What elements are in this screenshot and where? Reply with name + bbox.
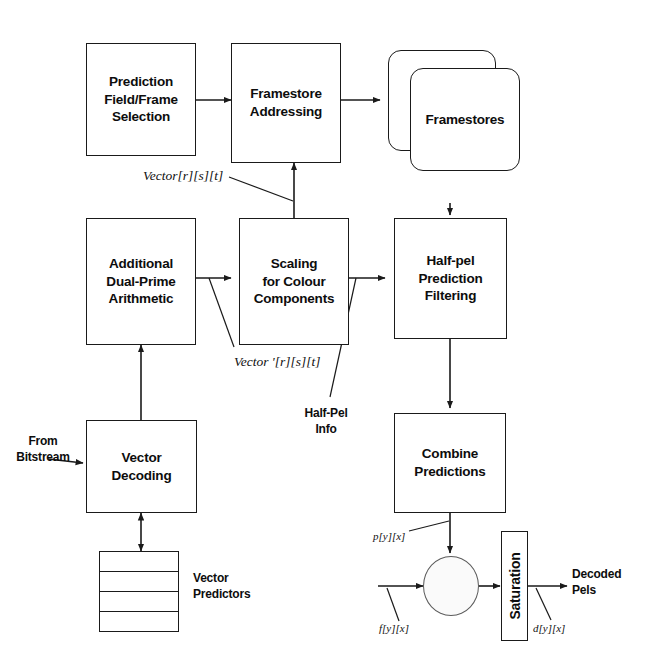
block-diagram: Prediction Field/Frame Selection Framest… <box>0 0 645 668</box>
annotation-vector-predictors: Vector Predictors <box>193 571 250 602</box>
leader-vector-rst <box>229 177 293 201</box>
annotation-decoded-pels: Decoded Pels <box>572 567 621 598</box>
block-label: Framestore Addressing <box>250 85 322 121</box>
block-half-pel-prediction-filtering[interactable]: Half-pel Prediction Filtering <box>394 218 507 339</box>
annotation-f-yx: f[y][x] <box>379 622 409 634</box>
annotation-half-pel-info: Half-Pel Info <box>295 406 357 437</box>
block-framestores[interactable]: Framestores <box>388 50 528 175</box>
predictor-slot <box>100 572 178 592</box>
adder-node[interactable] <box>423 556 479 616</box>
block-label: Vector Decoding <box>112 449 172 485</box>
block-label: Half-pel Prediction Filtering <box>418 252 482 305</box>
block-vector-predictors[interactable] <box>99 551 179 632</box>
block-additional-dual-prime-arithmetic[interactable]: Additional Dual-Prime Arithmetic <box>86 218 196 345</box>
block-label: Additional Dual-Prime Arithmetic <box>106 255 175 308</box>
block-saturation[interactable]: Saturation <box>501 531 528 641</box>
block-label: Scaling for Colour Components <box>254 255 335 308</box>
leader-p-yx <box>409 521 449 531</box>
block-prediction-field-frame-selection[interactable]: Prediction Field/Frame Selection <box>86 43 196 156</box>
annotation-vector-rst: Vector[r][s][t] <box>143 168 223 184</box>
block-label: Saturation <box>507 552 523 619</box>
block-label: Framestores <box>426 111 505 129</box>
leader-f-yx <box>387 588 399 621</box>
leader-vector-prime-rst <box>209 278 234 347</box>
annotation-d-yx: d[y][x] <box>533 622 565 634</box>
predictor-slot <box>100 552 178 572</box>
predictor-slot <box>100 612 178 631</box>
leader-d-yx <box>536 588 551 620</box>
block-vector-decoding[interactable]: Vector Decoding <box>86 420 197 513</box>
annotation-from-bitstream: From Bitstream <box>8 434 78 465</box>
framestores-front-sheet: Framestores <box>410 68 520 171</box>
predictor-slot <box>100 592 178 612</box>
block-label: Prediction Field/Frame Selection <box>104 73 178 126</box>
annotation-vector-prime-rst: Vector '[r][s][t] <box>234 354 321 370</box>
block-scaling-for-colour-components[interactable]: Scaling for Colour Components <box>239 218 349 345</box>
block-label: Combine Predictions <box>414 445 485 481</box>
block-framestore-addressing[interactable]: Framestore Addressing <box>231 43 341 163</box>
annotation-p-yx: p[y][x] <box>373 530 405 542</box>
block-combine-predictions[interactable]: Combine Predictions <box>394 413 506 513</box>
